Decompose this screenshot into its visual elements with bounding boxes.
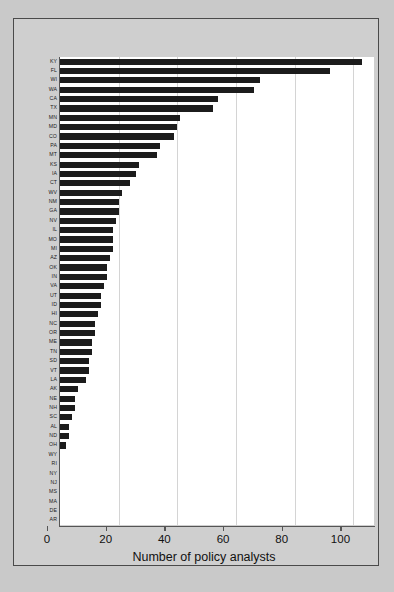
y-tick-label: MS [49, 489, 57, 494]
x-tick-label: 20 [99, 533, 112, 545]
y-tick-label: IL [52, 227, 57, 232]
y-tick-label: TN [50, 349, 57, 354]
bar-row: AR [60, 516, 374, 525]
y-tick-label: OR [49, 330, 57, 335]
bar-row: MI [60, 244, 374, 253]
bar-IN [60, 274, 107, 280]
bar-ID [60, 302, 101, 308]
bar-HI [60, 311, 98, 317]
y-tick-label: ME [49, 339, 57, 344]
y-tick-label: NC [49, 321, 57, 326]
y-tick-label: MN [49, 115, 57, 120]
bar-NV [60, 218, 116, 224]
bar-TX [60, 105, 213, 111]
y-tick-label: ND [49, 433, 57, 438]
bar-row: KS [60, 160, 374, 169]
bar-row: TX [60, 104, 374, 113]
y-tick-label: WV [48, 190, 57, 195]
bar-row: OK [60, 263, 374, 272]
x-tick-label: 80 [275, 533, 288, 545]
bar-row: OH [60, 441, 374, 450]
y-tick-label: MO [48, 237, 57, 242]
bar-NE [60, 396, 75, 402]
y-tick-label: NY [50, 471, 57, 476]
bar-LA [60, 377, 86, 383]
bar-TN [60, 349, 92, 355]
bar-row: OR [60, 328, 374, 337]
bar-row: MS [60, 488, 374, 497]
bar-CT [60, 180, 130, 186]
bar-IL [60, 227, 113, 233]
bar-AK [60, 386, 78, 392]
bar-row: CA [60, 94, 374, 103]
bar-row: IA [60, 169, 374, 178]
y-tick-label: GA [49, 208, 57, 213]
bar-row: CO [60, 132, 374, 141]
bar-NM [60, 199, 119, 205]
figure-plate: KYFLWIWACATXMNMDCOPAMTKSIACTWVNMGANVILMO… [13, 18, 379, 566]
bar-OK [60, 264, 107, 270]
bar-UT [60, 293, 101, 299]
bar-row: WI [60, 76, 374, 85]
bar-SD [60, 358, 89, 364]
y-tick-label: AZ [50, 255, 57, 260]
x-tick-label: 100 [331, 533, 350, 545]
y-tick-label: CT [50, 180, 57, 185]
y-tick-label: AK [50, 386, 57, 391]
y-tick-label: TX [50, 105, 57, 110]
y-tick-label: WA [49, 87, 57, 92]
bar-row: TN [60, 347, 374, 356]
bar-row: HI [60, 310, 374, 319]
y-axis-line [59, 57, 60, 527]
bar-row: NC [60, 319, 374, 328]
y-tick-label: LA [50, 377, 57, 382]
bar-row: AL [60, 422, 374, 431]
bar-row: NY [60, 469, 374, 478]
bar-NH [60, 405, 75, 411]
y-tick-label: MA [49, 499, 57, 504]
y-tick-label: NH [49, 405, 57, 410]
y-tick-label: OH [49, 442, 57, 447]
y-tick-label: FL [51, 68, 57, 73]
x-tick-label: 40 [158, 533, 171, 545]
bar-row: PA [60, 141, 374, 150]
y-tick-label: MD [49, 124, 57, 129]
bar-row: NM [60, 197, 374, 206]
y-tick-label: CA [50, 96, 57, 101]
y-tick-label: WI [50, 77, 57, 82]
bar-row: MA [60, 497, 374, 506]
bar-row: NE [60, 394, 374, 403]
bar-row: IL [60, 225, 374, 234]
bar-WI [60, 77, 260, 83]
bar-VA [60, 283, 104, 289]
y-tick-label: MI [51, 246, 57, 251]
x-tick-100 [340, 526, 341, 531]
bar-GA [60, 208, 119, 214]
bar-AZ [60, 255, 110, 261]
y-tick-label: CO [49, 134, 57, 139]
y-tick-label: AL [50, 424, 57, 429]
x-tick-80 [282, 526, 283, 531]
bar-MT [60, 152, 157, 158]
bar-MI [60, 246, 113, 252]
bar-ME [60, 339, 92, 345]
bar-row: ID [60, 300, 374, 309]
y-tick-label: VT [50, 368, 57, 373]
bar-row: WA [60, 85, 374, 94]
bar-FL [60, 68, 330, 74]
bar-row: MO [60, 235, 374, 244]
bar-row: GA [60, 207, 374, 216]
bar-CO [60, 133, 174, 139]
bar-SC [60, 414, 72, 420]
y-tick-label: NE [50, 396, 57, 401]
bar-row: MN [60, 113, 374, 122]
bar-row: MD [60, 123, 374, 132]
x-tick-20 [106, 526, 107, 531]
bar-row: LA [60, 375, 374, 384]
y-tick-label: HI [52, 311, 57, 316]
y-tick-label: AR [50, 517, 57, 522]
bar-row: FL [60, 66, 374, 75]
bar-row: NV [60, 216, 374, 225]
bar-row: NH [60, 403, 374, 412]
bar-KS [60, 162, 139, 168]
